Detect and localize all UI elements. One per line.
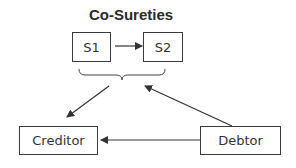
node-debtor: Debtor [200,126,281,155]
arrow-debtor-to-sureties [145,86,232,126]
brace [79,69,165,80]
arrow-sureties-to-creditor [67,86,109,117]
node-s2: S2 [143,32,183,62]
node-creditor: Creditor [19,126,98,155]
node-s1: S1 [72,32,111,62]
